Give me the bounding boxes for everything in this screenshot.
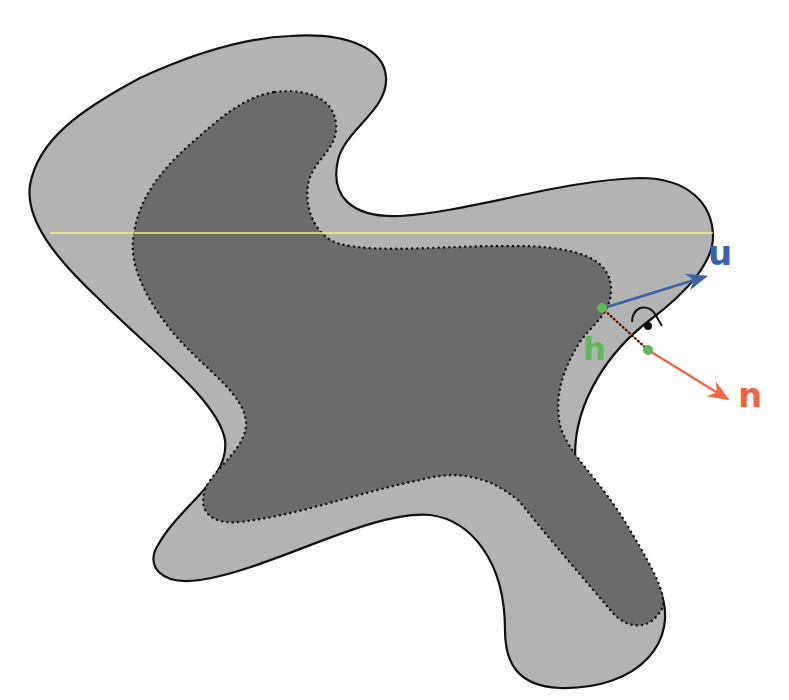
h-label: h bbox=[583, 330, 606, 368]
h-start-point bbox=[597, 303, 607, 313]
diagram-svg: u n h bbox=[0, 0, 789, 700]
diagram-canvas: u n h bbox=[0, 0, 789, 700]
right-angle-dot bbox=[644, 322, 652, 330]
n-label: n bbox=[738, 375, 762, 415]
n-vector bbox=[648, 350, 726, 398]
u-label: u bbox=[708, 233, 732, 273]
h-end-point bbox=[643, 345, 653, 355]
